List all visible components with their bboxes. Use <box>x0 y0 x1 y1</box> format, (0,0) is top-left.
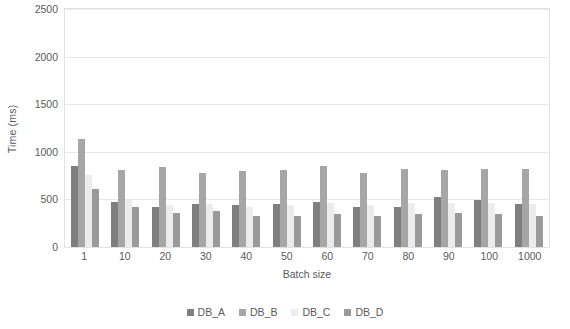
y-axis-title: Time (ms) <box>0 0 24 258</box>
x-axis-tick-label: 60 <box>307 250 348 266</box>
legend-item-DB_B[interactable]: DB_B <box>239 306 277 318</box>
bar-DB_B <box>320 166 327 247</box>
x-axis-tick-label: 30 <box>186 250 227 266</box>
x-axis-title: Batch size <box>64 268 550 280</box>
bar-DB_A <box>273 204 280 247</box>
y-axis-tick-labels: 05001000150020002500 <box>22 8 62 248</box>
x-axis-tick-label: 80 <box>388 250 429 266</box>
bar-group <box>347 9 387 247</box>
legend-swatch-icon <box>187 309 194 316</box>
bar-DB_B <box>481 169 488 247</box>
bar-group <box>307 9 347 247</box>
x-axis-tick-label: 1000 <box>510 250 551 266</box>
bar-DB_B <box>441 170 448 247</box>
bar-DB_B <box>522 169 529 247</box>
bar-group <box>186 9 226 247</box>
bars-layer <box>65 9 549 247</box>
y-axis-tick-label: 500 <box>40 193 58 205</box>
legend-swatch-icon <box>291 309 298 316</box>
bar-DB_C <box>287 205 294 247</box>
legend-label: DB_B <box>250 306 277 318</box>
legend-item-DB_A[interactable]: DB_A <box>187 306 225 318</box>
legend-label: DB_A <box>198 306 225 318</box>
x-axis-tick-label: 70 <box>348 250 389 266</box>
bar-DB_A <box>394 207 401 247</box>
legend-label: DB_C <box>302 306 330 318</box>
bar-group <box>509 9 549 247</box>
x-axis-tick-label: 20 <box>145 250 186 266</box>
legend-swatch-icon <box>344 309 351 316</box>
bar-DB_B <box>360 173 367 247</box>
bar-DB_C <box>367 205 374 247</box>
bar-DB_D <box>294 216 301 247</box>
bar-DB_C <box>85 175 92 247</box>
bar-DB_D <box>455 213 462 247</box>
legend-item-DB_C[interactable]: DB_C <box>291 306 330 318</box>
bar-DB_B <box>78 139 85 247</box>
bar-DB_D <box>495 214 502 247</box>
bar-DB_A <box>152 207 159 247</box>
y-axis-tick-label: 0 <box>52 241 58 253</box>
bar-DB_B <box>199 173 206 247</box>
bar-DB_C <box>125 200 132 247</box>
bar-DB_A <box>111 202 118 247</box>
bar-chart: Time (ms) 05001000150020002500 110203040… <box>0 0 570 329</box>
bar-DB_A <box>434 197 441 247</box>
y-axis-tick-label: 2000 <box>35 51 58 63</box>
x-axis-title-label: Batch size <box>283 268 331 280</box>
legend-label: DB_D <box>355 306 383 318</box>
y-axis-tick-label: 2500 <box>35 3 58 15</box>
x-axis-tick-label: 50 <box>267 250 308 266</box>
bar-group <box>267 9 307 247</box>
bar-DB_D <box>92 189 99 247</box>
y-axis-title-label: Time (ms) <box>6 105 18 154</box>
bar-DB_C <box>448 203 455 247</box>
legend-item-DB_D[interactable]: DB_D <box>344 306 383 318</box>
bar-DB_D <box>415 214 422 247</box>
y-axis-tick-label: 1500 <box>35 98 58 110</box>
legend-swatch-icon <box>239 309 246 316</box>
bar-DB_A <box>232 205 239 247</box>
bar-DB_C <box>206 204 213 247</box>
x-axis-tick-label: 1 <box>64 250 105 266</box>
bar-DB_C <box>408 203 415 247</box>
bar-group <box>226 9 266 247</box>
bar-DB_C <box>166 205 173 247</box>
bar-DB_B <box>118 170 125 247</box>
bar-group <box>65 9 105 247</box>
x-axis-tick-labels: 11020304050607080901001000 <box>64 250 550 266</box>
bar-DB_C <box>327 203 334 247</box>
x-axis-tick-label: 90 <box>429 250 470 266</box>
bar-DB_A <box>474 200 481 247</box>
bar-DB_A <box>313 202 320 247</box>
bar-group <box>428 9 468 247</box>
bar-DB_D <box>173 213 180 247</box>
x-axis-tick-label: 10 <box>105 250 146 266</box>
bar-DB_C <box>529 204 536 247</box>
y-axis-tick-label: 1000 <box>35 146 58 158</box>
plot-area <box>64 8 550 248</box>
bar-DB_D <box>536 216 543 247</box>
bar-DB_A <box>192 204 199 247</box>
bar-DB_A <box>515 204 522 247</box>
bar-DB_B <box>280 170 287 247</box>
bar-DB_B <box>159 167 166 247</box>
bar-DB_C <box>488 203 495 247</box>
bar-group <box>388 9 428 247</box>
x-axis-tick-label: 100 <box>469 250 510 266</box>
bar-DB_D <box>374 216 381 247</box>
bar-DB_D <box>213 211 220 247</box>
bar-DB_D <box>132 207 139 247</box>
bar-DB_A <box>71 166 78 247</box>
x-axis-tick-label: 40 <box>226 250 267 266</box>
bar-group <box>105 9 145 247</box>
bar-DB_C <box>246 207 253 247</box>
bar-DB_A <box>353 207 360 247</box>
bar-DB_B <box>401 169 408 247</box>
bar-DB_B <box>239 171 246 247</box>
chart-legend: DB_ADB_BDB_CDB_D <box>0 302 570 322</box>
bar-group <box>146 9 186 247</box>
bar-DB_D <box>334 214 341 247</box>
bar-DB_D <box>253 216 260 247</box>
bar-group <box>468 9 508 247</box>
